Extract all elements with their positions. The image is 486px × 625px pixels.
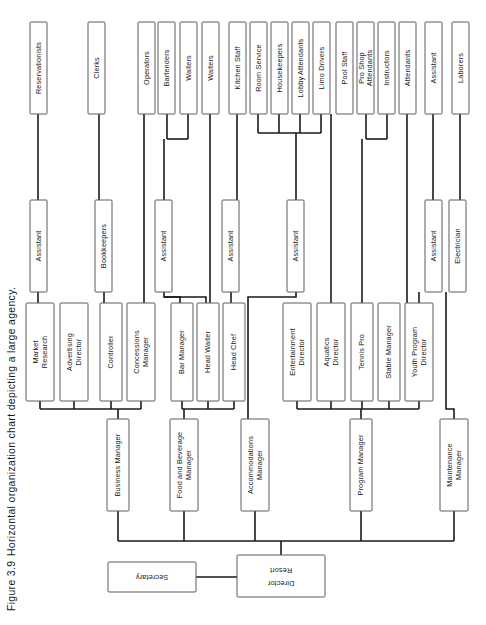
node-label: Bartenders	[162, 49, 171, 86]
node-label: Electrician	[453, 228, 462, 263]
node-maintenance-manager[interactable]: Maintenance Manager	[440, 419, 468, 511]
node-label: Lobby Attendants	[296, 38, 305, 97]
node-controller[interactable]: Controller	[100, 303, 122, 401]
node-accommodations-manager[interactable]: Accommodations Manager	[241, 419, 269, 511]
node-label: Operators	[142, 51, 151, 85]
node-label: Head Waiter	[203, 331, 212, 373]
node-label: Program Manager	[356, 434, 365, 495]
node-electrician[interactable]: Electrician	[449, 200, 466, 292]
node-operators[interactable]: Operators	[138, 22, 155, 114]
node-label: Assistant	[429, 231, 438, 262]
node-room-service[interactable]: Room Service	[250, 22, 267, 114]
node-assistant-maintenance[interactable]: Assistant	[425, 22, 442, 114]
node-label-line2: Manager	[255, 450, 264, 480]
figure-number: Figure 3.9	[6, 561, 17, 611]
node-label-line2: Director	[297, 338, 306, 365]
node-pool-staff[interactable]: Pool Staff	[336, 22, 353, 114]
node-head-chef[interactable]: Head Chef	[223, 303, 245, 401]
node-assistant-chef[interactable]: Assistant	[222, 200, 239, 292]
node-label-line1: Market	[31, 340, 40, 363]
node-secretary[interactable]: Secretary	[108, 562, 196, 592]
node-head-waiter[interactable]: Head Waiter	[197, 303, 219, 401]
org-chart-canvas: Figure 3.9 Horizontal organization chart…	[0, 0, 486, 625]
node-lobby-attendants[interactable]: Lobby Attendants	[292, 22, 309, 114]
node-label-line2: Manager	[454, 450, 463, 480]
node-business-manager[interactable]: Business Manager	[107, 419, 129, 511]
edge-headwaiter-assistant	[164, 297, 206, 303]
node-assistant-market-research[interactable]: Assistant	[30, 200, 47, 292]
node-label-line1: Maintenance	[445, 443, 454, 486]
node-label: Secretary	[136, 573, 169, 582]
node-label-line1: Resort	[270, 566, 292, 575]
node-assistant-bar[interactable]: Assistant	[155, 200, 172, 292]
node-pro-shop-attendants[interactable]: Pro Shop Attendants	[357, 22, 374, 114]
node-label-line2: Research	[40, 336, 49, 368]
node-aquatics-director[interactable]: Aquatics Director	[317, 303, 345, 401]
node-program-manager[interactable]: Program Manager	[350, 419, 372, 511]
node-label: Laborers	[456, 53, 465, 83]
node-label-line1: Advertising	[65, 333, 74, 371]
edge-maint-electrician	[446, 292, 454, 419]
node-label: Housekeepers	[275, 43, 284, 92]
node-label-line1: Accommodations	[246, 436, 255, 494]
node-attendants[interactable]: Attendants	[399, 22, 416, 114]
node-kitchen-staff[interactable]: Kitchen Staff	[229, 22, 246, 114]
node-label: Bar Manager	[177, 330, 186, 374]
node-limo-drivers[interactable]: Limo Drivers	[313, 22, 330, 114]
node-label-line2: Manager	[141, 337, 150, 367]
node-label: Attendants	[403, 50, 412, 87]
node-label: Clerks	[92, 57, 101, 79]
node-food-beverage-manager[interactable]: Food and Beverage Manager	[170, 419, 198, 511]
node-assistant-accommodations[interactable]: Assistant	[287, 200, 304, 292]
node-label-line2: Director	[419, 338, 428, 365]
node-advertising-director[interactable]: Advertising Director	[60, 303, 88, 401]
node-label-line2: Attendants	[365, 50, 374, 87]
node-clerks[interactable]: Clerks	[88, 22, 105, 114]
node-label-line2: Director	[331, 338, 340, 365]
node-label: Pool Staff	[340, 51, 349, 85]
node-resort-director[interactable]: Resort Director	[237, 555, 325, 597]
figure-caption-text: Horizontal organization chart depicting …	[6, 287, 17, 556]
node-label: Waiters	[184, 55, 193, 81]
node-market-research[interactable]: Market Research	[26, 303, 54, 401]
node-bookkeepers[interactable]: Bookkeepers	[95, 200, 112, 292]
node-label: Tennis Pro	[357, 334, 366, 370]
node-laborers[interactable]: Laborers	[452, 22, 469, 114]
node-assistant-youth[interactable]: Assistant	[425, 200, 442, 292]
node-label: Assistant	[159, 231, 168, 262]
node-youth-program-director[interactable]: Youth Program Director	[405, 303, 433, 401]
node-label: Limo Drivers	[317, 46, 326, 89]
node-waiters-2[interactable]: Waiters	[202, 22, 219, 114]
node-label-line1: Food and Beverage	[175, 432, 184, 499]
node-label: Controller	[106, 335, 115, 369]
node-label: Assistant	[291, 231, 300, 262]
node-instructors[interactable]: Instructors	[378, 22, 395, 114]
node-label-line1: Concessions	[132, 330, 141, 374]
node-label: Kitchen Staff	[233, 46, 242, 90]
node-label-line1: Aquatics	[322, 337, 331, 366]
node-label: Assistant	[429, 53, 438, 84]
node-label-line1: Youth Program	[410, 327, 419, 377]
node-tennis-pro[interactable]: Tennis Pro	[351, 303, 373, 401]
node-label-line2: Director	[267, 579, 294, 588]
node-label: Instructors	[382, 50, 391, 86]
node-stable-manager[interactable]: Stable Manager	[378, 303, 400, 401]
node-label: Room Service	[254, 44, 263, 92]
node-label-line2: Manager	[184, 450, 193, 480]
node-concessions-manager[interactable]: Concessions Manager	[127, 303, 155, 401]
node-reservationists[interactable]: Reservationists	[30, 22, 47, 114]
node-label: Business Manager	[113, 433, 122, 496]
node-label: Assistant	[34, 231, 43, 262]
org-chart-figure: Figure 3.9 Horizontal organization chart…	[0, 0, 486, 625]
node-label-line2: Director	[74, 338, 83, 365]
node-bar-manager[interactable]: Bar Manager	[171, 303, 193, 401]
node-label: Waiters	[206, 55, 215, 81]
node-bartenders[interactable]: Bartenders	[158, 22, 175, 114]
node-waiters-1[interactable]: Waiters	[180, 22, 197, 114]
node-label: Head Chef	[229, 333, 238, 370]
node-label: Stable Manager	[384, 325, 393, 379]
node-housekeepers[interactable]: Housekeepers	[271, 22, 288, 114]
node-label: Assistant	[226, 231, 235, 262]
node-entertainment-director[interactable]: Entertainment Director	[283, 303, 311, 401]
node-label: Bookkeepers	[99, 224, 108, 268]
